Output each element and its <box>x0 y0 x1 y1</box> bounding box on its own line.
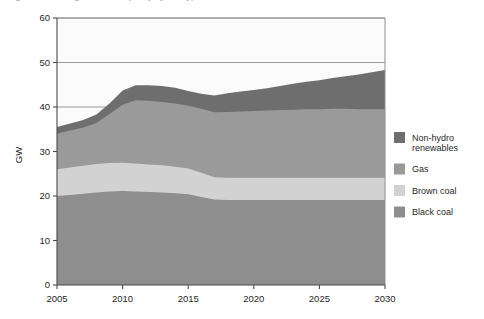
chart-figure: Figure: Installed generation capacity by… <box>0 0 484 319</box>
y-tick-label-50: 50 <box>39 57 50 68</box>
x-tick-label-2020: 2020 <box>243 293 264 304</box>
y-tick-label-20: 20 <box>39 190 50 201</box>
x-tick-label-2030: 2030 <box>374 293 395 304</box>
x-tick-label-2015: 2015 <box>178 293 199 304</box>
stacked-area-chart: 0102030405060 200520102015202020252030 G… <box>0 0 484 319</box>
chart-legend: Non-hydrorenewablesGasBrown coalBlack co… <box>394 132 459 218</box>
y-tick-label-60: 60 <box>39 12 50 23</box>
y-axis-title: GW <box>13 147 24 163</box>
legend-label-black-coal: Black coal <box>412 207 453 217</box>
legend-label-brown-coal: Brown coal <box>412 186 457 196</box>
area-black-coal <box>57 191 385 285</box>
legend-label-non-hydro-renewables: Non-hydro <box>412 133 454 143</box>
legend-swatch-black-coal <box>394 207 405 218</box>
legend-label-non-hydro-renewables-line2: renewables <box>412 143 459 153</box>
legend-swatch-brown-coal <box>394 185 405 196</box>
x-axis-ticks: 200520102015202020252030 <box>46 285 395 304</box>
y-tick-label-10: 10 <box>39 235 50 246</box>
legend-swatch-gas <box>394 164 405 175</box>
x-tick-label-2010: 2010 <box>112 293 133 304</box>
y-axis-ticks: 0102030405060 <box>39 12 57 290</box>
y-tick-label-40: 40 <box>39 101 50 112</box>
legend-label-gas: Gas <box>412 164 429 174</box>
x-tick-label-2005: 2005 <box>46 293 67 304</box>
legend-swatch-non-hydro-renewables <box>394 132 405 143</box>
cut-off-figure-title: Figure: Installed generation capacity by… <box>8 0 201 1</box>
y-tick-label-30: 30 <box>39 146 50 157</box>
y-tick-label-0: 0 <box>45 279 50 290</box>
x-tick-label-2025: 2025 <box>309 293 330 304</box>
